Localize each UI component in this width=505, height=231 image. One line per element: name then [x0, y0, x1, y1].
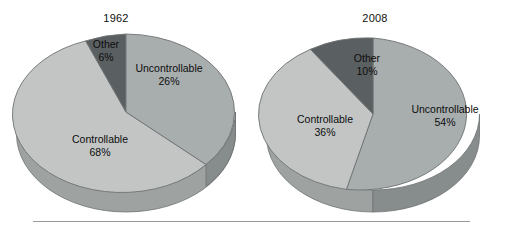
- slice-label-uncontrollable-right-value: 54%: [395, 116, 495, 129]
- slice-label-other-left: Other 6%: [84, 38, 128, 63]
- pie-chart-1962: 1962 Other 6% Uncontrollable 26% Control…: [0, 0, 252, 215]
- slice-label-other-right: Other 10%: [345, 52, 389, 77]
- slice-label-controllable-left: Controllable 68%: [54, 133, 146, 158]
- slice-label-other-right-name: Other: [345, 52, 389, 65]
- slice-label-controllable-left-value: 68%: [54, 146, 146, 159]
- slice-label-uncontrollable-left: Uncontrollable 26%: [122, 62, 216, 87]
- slice-label-uncontrollable-right-name: Uncontrollable: [395, 103, 495, 116]
- slice-label-uncontrollable-left-value: 26%: [122, 75, 216, 88]
- bottom-divider-rule: [33, 221, 470, 222]
- slice-label-other-left-name: Other: [84, 38, 128, 51]
- slice-label-controllable-right: Controllable 36%: [279, 113, 371, 138]
- pie-chart-figure: 1962 Other 6% Uncontrollable 26% Control…: [0, 0, 505, 231]
- slice-label-other-right-value: 10%: [345, 65, 389, 78]
- slice-label-uncontrollable-right: Uncontrollable 54%: [395, 103, 495, 128]
- slice-label-controllable-left-name: Controllable: [54, 133, 146, 146]
- slice-label-uncontrollable-left-name: Uncontrollable: [122, 62, 216, 75]
- pie-graphic-left: [0, 0, 252, 215]
- pie-chart-2008: 2008 Other 10% Uncontrollable 54% Contro…: [253, 0, 505, 215]
- slice-label-controllable-right-name: Controllable: [279, 113, 371, 126]
- slice-label-controllable-right-value: 36%: [279, 126, 371, 139]
